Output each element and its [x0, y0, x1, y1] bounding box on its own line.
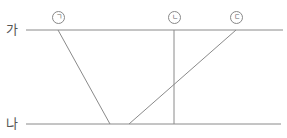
label-ga: 가: [6, 23, 18, 36]
label-na: 나: [6, 117, 18, 130]
segment-digeut: [129, 30, 236, 124]
marker-giyeok: ㄱ: [52, 11, 65, 24]
diagram-canvas: [0, 0, 287, 138]
marker-digeut: ㄷ: [230, 11, 243, 24]
segment-giyeok: [58, 30, 110, 124]
marker-nieun: ㄴ: [168, 11, 181, 24]
